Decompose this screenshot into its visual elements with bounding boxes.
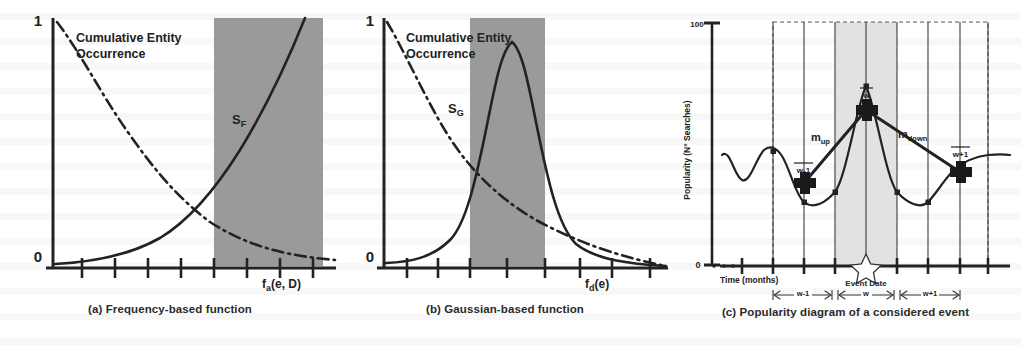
label-m-up: mup xyxy=(811,131,830,146)
panel-a-plot: 1 0 Cumulative Entity Occurrence SF fa(e… xyxy=(0,0,340,300)
x-axis-label-a: fa(e, D) xyxy=(262,277,301,293)
y-tick-top-a: 1 xyxy=(34,12,42,29)
interval-label-w-plus-1: w+1 xyxy=(922,289,937,298)
label-m-down: mdown xyxy=(898,128,928,143)
caption-panel-c: (c) Popularity diagram of a considered e… xyxy=(670,306,1021,318)
y-tick-top-c: 100 xyxy=(690,20,704,29)
shaded-region-a xyxy=(214,18,323,266)
shaded-region-b xyxy=(470,18,545,266)
interval-label-w-minus-1: w-1 xyxy=(796,289,810,298)
y-tick-top-b: 1 xyxy=(366,12,374,29)
label-cumulative-occurrence-b-line2: Occurrence xyxy=(406,47,476,61)
caption-panel-a: (a) Frequency-based function xyxy=(0,303,340,315)
point-label-w-minus-1: w-1 xyxy=(796,166,811,175)
y-tick-bottom-a: 0 xyxy=(34,248,42,265)
panel-gaussian-based: 1 0 Cumulative Entity Occurrence SG fd(e… xyxy=(340,0,670,345)
panel-frequency-based: 1 0 Cumulative Entity Occurrence SF fa(e… xyxy=(0,0,340,345)
event-date-label: Event Date xyxy=(845,279,887,288)
interval-labels: w-1 w w+1 xyxy=(794,288,939,298)
x-axis-label-c: Time (months) xyxy=(720,275,779,285)
x-axis-label-b: fd(e) xyxy=(585,277,609,293)
interval-label-w: w xyxy=(862,289,869,298)
panel-b-plot: 1 0 Cumulative Entity Occurrence SG fd(e… xyxy=(340,0,670,300)
point-label-w-bar: w xyxy=(862,91,870,100)
panel-popularity-diagram: 100 0 Popularity (N° Searches) xyxy=(670,0,1021,345)
y-axis-label-c: Popularity (N° Searches) xyxy=(682,100,692,199)
label-cumulative-occurrence-b-line1: Cumulative Entity xyxy=(406,31,512,45)
label-cumulative-occurrence-a-line2: Occurrence xyxy=(76,47,146,61)
point-label-w-plus-1: w+1 xyxy=(952,150,969,159)
figure-root: 1 0 Cumulative Entity Occurrence SF fa(e… xyxy=(0,0,1021,345)
caption-panel-b: (b) Gaussian-based function xyxy=(340,303,670,315)
label-cumulative-occurrence-a-line1: Cumulative Entity xyxy=(76,31,182,45)
y-tick-bottom-c: 0 xyxy=(695,260,700,270)
y-tick-bottom-b: 0 xyxy=(366,248,374,265)
cross-marker-w-plus-1 xyxy=(950,161,972,183)
label-sg: SG xyxy=(448,101,464,118)
panel-c-plot: 100 0 Popularity (N° Searches) xyxy=(670,0,1021,300)
